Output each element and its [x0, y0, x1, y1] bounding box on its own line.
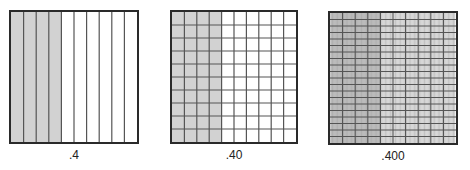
hundredths-grid — [170, 10, 298, 144]
tenths-label: .4 — [44, 148, 104, 162]
thousandths-label: .400 — [363, 149, 423, 163]
tenths-grid — [9, 10, 139, 144]
hundredths-label: .40 — [204, 148, 264, 162]
thousandths-grid — [328, 11, 458, 145]
